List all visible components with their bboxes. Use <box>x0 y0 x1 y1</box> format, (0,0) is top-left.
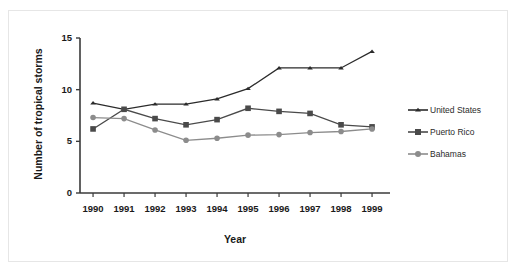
data-point-marker <box>90 101 96 104</box>
data-point-marker <box>152 127 158 133</box>
data-point-marker <box>276 109 282 115</box>
data-point-marker <box>307 130 313 136</box>
data-point-marker <box>415 129 421 135</box>
legend-item-united-states <box>408 108 428 112</box>
y-tick-label: 0 <box>50 187 72 198</box>
x-tick-label: 1999 <box>352 203 392 214</box>
data-point-marker <box>90 126 96 132</box>
legend-markers <box>408 108 428 157</box>
data-point-marker <box>214 135 220 141</box>
data-series-group <box>90 49 375 143</box>
series-puerto-rico <box>90 105 375 131</box>
data-point-marker <box>121 116 127 122</box>
data-point-marker <box>152 116 158 122</box>
axes <box>80 38 390 193</box>
data-point-marker <box>338 122 344 128</box>
data-point-marker <box>183 138 189 144</box>
data-point-marker <box>183 122 189 128</box>
data-point-marker <box>338 129 344 135</box>
data-point-marker <box>90 115 96 121</box>
data-point-marker <box>214 117 220 123</box>
data-point-marker <box>245 105 251 111</box>
data-point-marker <box>369 126 375 132</box>
data-point-marker <box>307 111 313 117</box>
y-tick-label: 5 <box>50 135 72 146</box>
chart-figure: Number of tropical storms Year 051015 19… <box>0 0 520 274</box>
legend-label-united-states: United States <box>430 105 481 115</box>
data-point-marker <box>369 49 375 52</box>
series-line <box>93 108 372 129</box>
data-point-marker <box>415 151 421 157</box>
series-bahamas <box>90 115 375 143</box>
legend-label-puerto-rico: Puerto Rico <box>430 127 474 137</box>
y-tick-label: 10 <box>50 84 72 95</box>
y-tick-label: 15 <box>50 32 72 43</box>
series-united-states <box>90 49 375 110</box>
legend-label-bahamas: Bahamas <box>430 149 466 159</box>
data-point-marker <box>245 132 251 138</box>
legend-item-bahamas <box>408 151 428 157</box>
series-line <box>93 51 372 109</box>
data-point-marker <box>121 107 127 113</box>
legend-item-puerto-rico <box>408 129 428 135</box>
x-axis-title: Year <box>80 233 390 245</box>
data-point-marker <box>276 132 282 138</box>
y-axis-title: Number of tropical storms <box>32 34 44 194</box>
